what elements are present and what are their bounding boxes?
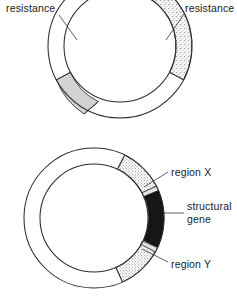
- label-resistance-left: resistance: [6, 2, 55, 14]
- lower-plasmid-group: region X structural gene region Y: [24, 148, 232, 288]
- plasmid-diagram-canvas: resistance resistance: [0, 0, 237, 303]
- segment-region-x: [118, 155, 157, 193]
- segment-region-y: [116, 244, 155, 281]
- lower-ring-inner-outline: [40, 164, 148, 272]
- plasmid-figure: resistance resistance: [0, 0, 237, 303]
- label-region-y: region Y: [171, 258, 211, 270]
- label-structural-gene-line1: structural: [187, 200, 232, 212]
- upper-ring-inner-outline: [64, 0, 176, 102]
- leader-resistance-left: [59, 15, 77, 40]
- label-structural-gene-line2: gene: [187, 213, 211, 225]
- label-resistance-right: resistance: [185, 2, 234, 14]
- label-region-x: region X: [171, 166, 211, 178]
- upper-plasmid-group: resistance resistance: [6, 0, 234, 118]
- segment-resistance-left: [56, 72, 98, 114]
